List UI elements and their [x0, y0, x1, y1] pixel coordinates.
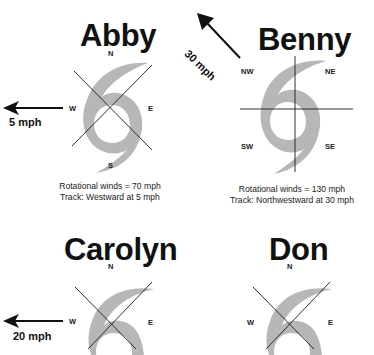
storm-title-carolyn: Carolyn — [64, 234, 177, 265]
arrow-west-icon-abby — [3, 101, 63, 115]
compass-w-abby: W — [69, 105, 76, 113]
compass-w-don: W — [247, 319, 254, 327]
storm-title-don: Don — [269, 234, 328, 265]
compass-sw-benny: SW — [241, 143, 253, 151]
clipped-top-text-2: · — [355, 0, 358, 4]
track-benny: Track: Northwestward at 30 mph — [212, 195, 372, 206]
speed-label-abby: 5 mph — [9, 117, 41, 128]
arrow-northwest-icon-benny — [197, 13, 245, 61]
compass-ne-benny: NE — [325, 68, 335, 76]
compass-w-carolyn: W — [69, 318, 76, 326]
rotational-winds-abby: Rotational winds = 70 mph — [40, 181, 180, 192]
info-abby: Rotational winds = 70 mph Track: Westwar… — [40, 181, 180, 203]
compass-nw-benny: NW — [241, 68, 254, 76]
compass-se-benny: SE — [325, 143, 335, 151]
speed-label-carolyn: 20 mph — [13, 331, 52, 342]
clipped-top-text: · — [293, 0, 296, 4]
compass-cross-benny — [240, 55, 360, 175]
storm-title-benny: Benny — [258, 24, 351, 55]
hurricane-icon-abby — [70, 60, 170, 170]
compass-e-carolyn: E — [148, 319, 153, 327]
storm-title-abby: Abby — [80, 20, 156, 51]
track-abby: Track: Westward at 5 mph — [40, 192, 180, 203]
compass-s-abby: S — [108, 162, 113, 170]
arrow-west-icon-carolyn — [3, 314, 63, 328]
compass-n-carolyn: N — [108, 263, 113, 271]
compass-n-abby: N — [108, 50, 113, 58]
compass-e-abby: E — [148, 105, 153, 113]
hurricane-icon-carolyn — [72, 275, 172, 355]
info-benny: Rotational winds = 130 mph Track: Northw… — [212, 184, 372, 206]
rotational-winds-benny: Rotational winds = 130 mph — [212, 184, 372, 195]
compass-e-don: E — [328, 319, 333, 327]
hurricane-icon-don — [250, 275, 350, 355]
compass-n-don: N — [287, 263, 292, 271]
